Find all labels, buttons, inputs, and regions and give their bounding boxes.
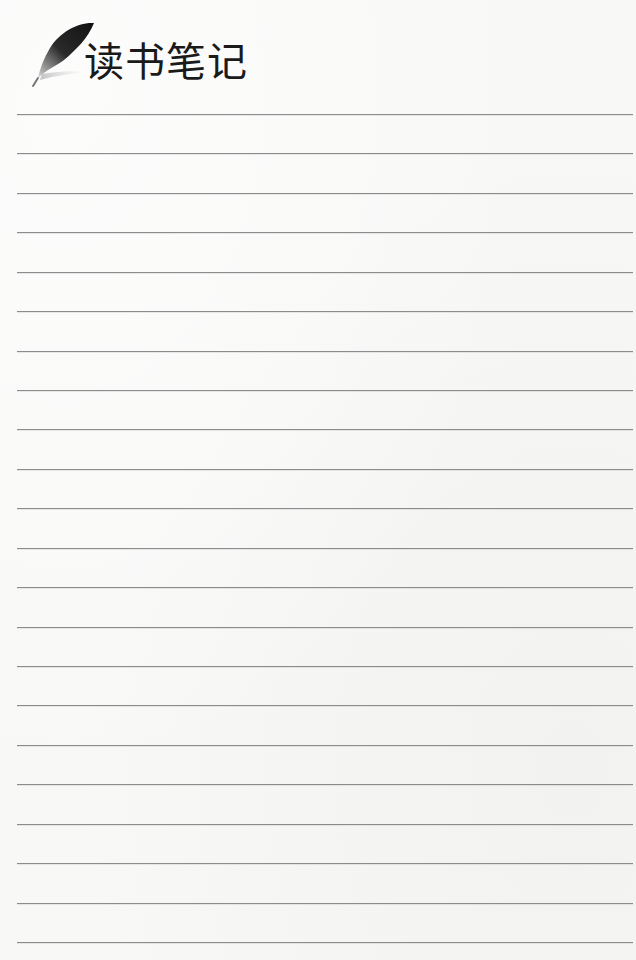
ruled-lines bbox=[17, 0, 633, 960]
ruled-line bbox=[17, 824, 633, 825]
ruled-line bbox=[17, 745, 633, 746]
ruled-line bbox=[17, 705, 633, 706]
ruled-line bbox=[17, 784, 633, 785]
ruled-line bbox=[17, 311, 633, 312]
ruled-line bbox=[17, 627, 633, 628]
ruled-line bbox=[17, 548, 633, 549]
ruled-line bbox=[17, 390, 633, 391]
ruled-line bbox=[17, 469, 633, 470]
ruled-line bbox=[17, 587, 633, 588]
ruled-line bbox=[17, 351, 633, 352]
ruled-line bbox=[17, 232, 633, 233]
ruled-line bbox=[17, 666, 633, 667]
ruled-line bbox=[17, 863, 633, 864]
ruled-line bbox=[17, 272, 633, 273]
ruled-line bbox=[17, 942, 633, 943]
ruled-line bbox=[17, 508, 633, 509]
ruled-line bbox=[17, 429, 633, 430]
ruled-line bbox=[17, 903, 633, 904]
ruled-line bbox=[17, 153, 633, 154]
ruled-line bbox=[17, 114, 633, 115]
ruled-line bbox=[17, 193, 633, 194]
